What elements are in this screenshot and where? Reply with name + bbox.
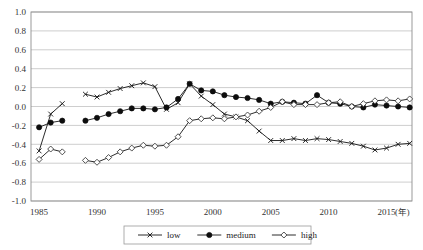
marker-dot [199,88,204,93]
y-tick-label: 0.2 [15,83,26,93]
marker-dot [396,104,401,109]
marker-dot [384,103,389,108]
marker-dot [210,89,215,94]
marker-dot [187,81,192,86]
marker-diamond [198,116,204,122]
marker-diamond [384,97,390,103]
marker-diamond [117,149,123,155]
y-tick-label: -0.4 [12,140,27,150]
y-tick-label: 0.6 [15,45,27,55]
marker-diamond [245,112,251,118]
marker-cross [199,94,204,99]
marker-cross [60,101,65,106]
marker-cross [153,84,158,89]
marker-dot [106,111,111,116]
marker-dot [83,118,88,123]
x-axis-tick-labels: 1985199019952000200520102015 [30,207,396,217]
legend-label-medium: medium [226,230,256,240]
marker-diamond [279,99,285,105]
x-tick-label: 2000 [204,207,223,217]
marker-diamond [140,142,146,148]
marker-dot [48,120,53,125]
line-chart-panel: 1.00.80.60.40.20.0-0.2-0.4-0.6-0.8-1.0 1… [0,0,423,250]
marker-dot [118,109,123,114]
marker-diamond [94,159,100,165]
marker-diamond [395,98,401,104]
marker-dot [94,115,99,120]
x-tick-label: 1995 [146,207,165,217]
marker-cross [245,118,250,123]
marker-cross [257,129,262,134]
marker-diamond [210,115,216,121]
marker-dot [129,106,134,111]
marker-dot [257,97,262,102]
y-tick-label: -0.8 [12,177,27,187]
marker-diamond [349,104,355,110]
marker-dot [175,96,180,101]
legend-label-high: high [301,230,318,240]
marker-dot [245,95,250,100]
marker-diamond [175,134,181,140]
marker-dot [207,232,212,237]
marker-diamond [256,108,262,114]
y-tick-label: 1.0 [15,7,27,17]
marker-dot [141,106,146,111]
y-tick-label: 0.8 [15,26,27,36]
marker-diamond [187,118,193,124]
marker-diamond [326,100,332,106]
marker-cross [48,112,53,117]
y-tick-label: 0.0 [15,102,27,112]
chart-legend: lowmediumhigh [124,226,317,244]
marker-dot [60,118,65,123]
marker-dot [407,105,412,110]
marker-dot [233,94,238,99]
series-line-low [39,104,62,151]
y-tick-label: -1.0 [12,196,27,206]
marker-dot [314,93,319,98]
legend-label-low: low [167,230,181,240]
x-tick-label: 2010 [320,207,339,217]
marker-diamond [163,142,169,148]
y-axis-tick-labels: 1.00.80.60.40.20.0-0.2-0.4-0.6-0.8-1.0 [12,7,27,206]
marker-diamond [106,155,112,161]
x-tick-label: 2005 [262,207,281,217]
marker-cross [106,90,111,95]
marker-diamond [129,145,135,151]
marker-dot [37,125,42,130]
marker-diamond [59,149,65,155]
chart-canvas: 1.00.80.60.40.20.0-0.2-0.4-0.6-0.8-1.0 1… [0,0,423,250]
marker-dot [152,107,157,112]
x-tick-label: 2015 [378,207,397,217]
data-series-group [36,80,413,165]
x-axis-unit-label: (年) [395,207,410,217]
marker-cross [37,149,42,154]
marker-dot [164,105,169,110]
x-tick-label: 1985 [30,207,49,217]
marker-diamond [82,157,88,163]
y-tick-label: 0.4 [15,64,27,74]
x-tick-label: 1990 [88,207,107,217]
y-tick-label: -0.6 [12,158,27,168]
y-tick-label: -0.2 [12,121,26,131]
marker-dot [222,93,227,98]
